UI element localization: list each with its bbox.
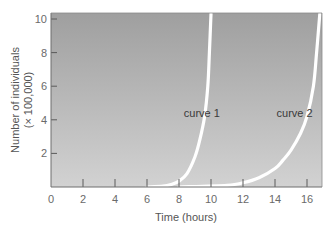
x-tick-label: 8 — [176, 193, 182, 205]
y-tick-label: 2 — [41, 147, 47, 159]
y-axis-title-line-1: Number of individuals — [9, 47, 21, 153]
chart: 0246810121416 246810 curve 1curve 2 Time… — [0, 0, 331, 233]
x-tick-label: 4 — [112, 193, 118, 205]
y-tick-label: 4 — [41, 114, 47, 126]
x-tick-label: 2 — [80, 193, 86, 205]
curve-1-label: curve 1 — [184, 107, 220, 119]
x-tick-label: 6 — [144, 193, 150, 205]
x-tick-label: 0 — [48, 193, 54, 205]
y-axis-title: Number of individuals (× 100,000) — [9, 47, 34, 153]
y-tick-label: 6 — [41, 80, 47, 92]
y-axis-title-line-2: (× 100,000) — [22, 72, 34, 129]
x-tick-label: 12 — [237, 193, 249, 205]
x-axis-title: Time (hours) — [155, 211, 217, 223]
curve-2-label: curve 2 — [277, 107, 313, 119]
y-tick-label: 8 — [41, 47, 47, 59]
x-tick-label: 14 — [269, 193, 281, 205]
x-tick-label: 16 — [301, 193, 313, 205]
x-tick-label: 10 — [205, 193, 217, 205]
y-tick-label: 10 — [35, 13, 47, 25]
